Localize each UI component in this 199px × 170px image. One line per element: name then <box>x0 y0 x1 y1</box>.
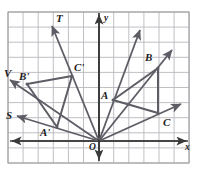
vertex-C-prime <box>71 75 74 78</box>
label-B-prime: B' <box>19 71 29 82</box>
vertex-origin <box>97 139 100 142</box>
vertex-A <box>112 99 115 102</box>
vertex-B-prime <box>26 83 29 86</box>
label-x-axis: x <box>185 143 190 153</box>
label-V: V <box>4 68 11 79</box>
vertex-B <box>157 67 160 70</box>
vertex-A-prime <box>56 126 59 129</box>
vertex-C <box>157 112 160 115</box>
label-y-axis: y <box>104 14 108 24</box>
label-T: T <box>56 13 63 24</box>
label-A: A <box>101 90 108 101</box>
geometry-figure: TyBC'VB'ASCA'Ox <box>0 0 199 170</box>
label-B: B <box>145 52 152 63</box>
label-C: C <box>163 117 170 128</box>
label-A-prime: A' <box>40 127 50 138</box>
label-C-prime: C' <box>74 62 84 73</box>
label-S: S <box>6 110 12 121</box>
coordinate-plane-svg <box>0 0 199 170</box>
label-O: O <box>89 143 96 153</box>
